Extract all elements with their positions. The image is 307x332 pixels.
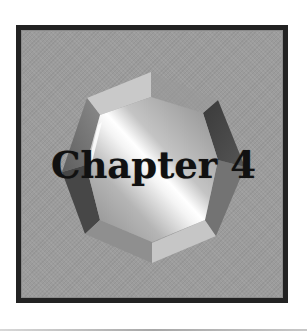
page-divider xyxy=(0,329,307,331)
chapter-title: Chapter 4 xyxy=(0,143,307,187)
